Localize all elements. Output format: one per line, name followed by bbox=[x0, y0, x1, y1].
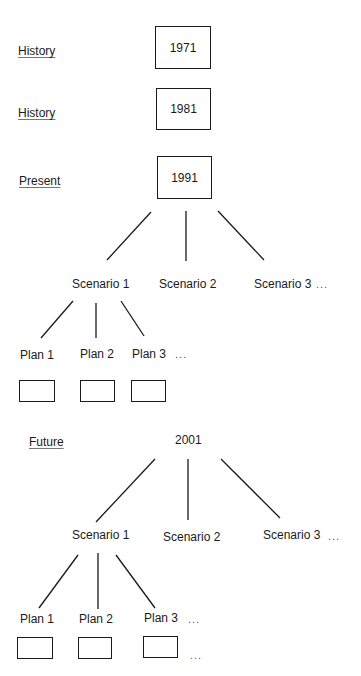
present-plan-box-2 bbox=[80, 380, 115, 402]
future-boxes-ellipsis: ... bbox=[190, 649, 202, 661]
year-label: 1971 bbox=[170, 41, 197, 55]
present-plan-2: Plan 2 bbox=[80, 347, 114, 361]
future-plan-box-1 bbox=[17, 637, 53, 659]
present-plan-3: Plan 3 bbox=[132, 347, 166, 361]
future-plan-1: Plan 1 bbox=[20, 612, 54, 626]
era-label-history-1: History bbox=[18, 44, 55, 58]
present-plan-1: Plan 1 bbox=[20, 348, 54, 362]
year-label: 1991 bbox=[171, 171, 198, 185]
scenario-planning-diagram: History History Present Future 1971 1981… bbox=[0, 0, 361, 676]
future-scenario-3: Scenario 3 bbox=[263, 528, 320, 542]
era-label-history-2: History bbox=[18, 106, 55, 120]
future-scenario-1: Scenario 1 bbox=[72, 528, 129, 542]
present-plan-box-3 bbox=[131, 380, 166, 402]
future-plan-3: Plan 3 bbox=[144, 611, 178, 625]
era-label-present: Present bbox=[19, 174, 60, 188]
future-scenario-2: Scenario 2 bbox=[163, 530, 220, 544]
year-box-1981: 1981 bbox=[156, 88, 211, 130]
year-box-1991: 1991 bbox=[157, 156, 212, 199]
future-plan-2: Plan 2 bbox=[79, 612, 113, 626]
present-plans-ellipsis: ... bbox=[175, 348, 187, 360]
present-scenarios-ellipsis: ... bbox=[316, 278, 328, 290]
present-scenario-1: Scenario 1 bbox=[72, 277, 129, 291]
present-scenario-2: Scenario 2 bbox=[159, 277, 216, 291]
future-scenarios-ellipsis: ... bbox=[328, 530, 340, 542]
future-plan-box-2 bbox=[78, 637, 112, 659]
year-box-1971: 1971 bbox=[155, 26, 211, 69]
era-label-future: Future bbox=[29, 435, 64, 449]
present-plan-box-1 bbox=[19, 380, 55, 402]
present-scenario-3: Scenario 3 bbox=[254, 277, 311, 291]
year-label-2001: 2001 bbox=[175, 433, 202, 447]
future-plans-ellipsis: ... bbox=[188, 613, 200, 625]
future-plan-box-3 bbox=[143, 636, 178, 658]
year-label: 1981 bbox=[170, 102, 197, 116]
